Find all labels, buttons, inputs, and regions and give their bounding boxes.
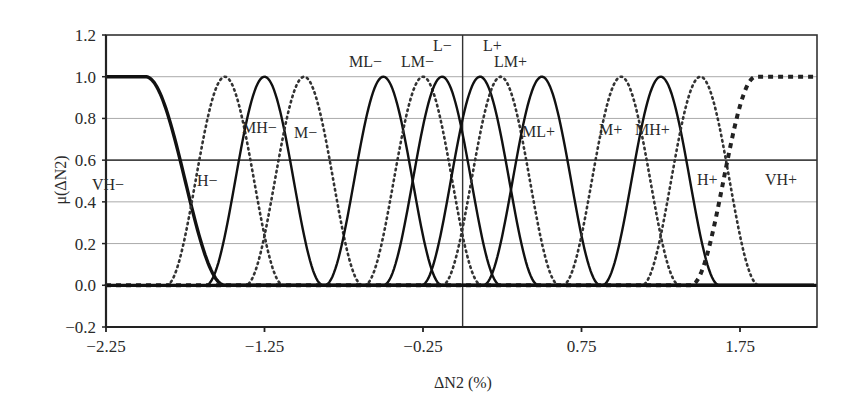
x-tick-label: −2.25: [86, 337, 125, 356]
curve-label: L−: [433, 37, 452, 54]
curve-label: LM−: [401, 53, 434, 70]
x-tick-label: 1.75: [725, 337, 755, 356]
y-axis-title: μ(ΔN2): [52, 155, 70, 204]
y-tick-label: 0.2: [75, 235, 96, 254]
x-tick-label: −0.25: [403, 337, 442, 356]
curve-label: ML−: [349, 53, 382, 70]
y-tick-label: 1.0: [75, 68, 96, 87]
x-axis-title: ΔN2 (%): [434, 374, 492, 392]
curve-label: VH−: [92, 176, 124, 193]
curve-label: L+: [483, 37, 502, 54]
y-tick-label: 0.0: [75, 276, 96, 295]
x-tick-label: −1.25: [245, 337, 284, 356]
y-tick-label: 1.2: [75, 26, 96, 45]
fuzzy-membership-chart: −0.20.00.20.40.60.81.01.2−2.25−1.25−0.25…: [0, 0, 852, 400]
curve-label: MH+: [635, 121, 670, 138]
y-tick-label: 0.4: [75, 193, 97, 212]
curve-label: M+: [599, 121, 622, 138]
curve-label: H−: [197, 172, 218, 189]
y-tick-label: −0.2: [65, 318, 96, 337]
x-tick-label: 0.75: [567, 337, 597, 356]
curve-label: MH−: [242, 119, 277, 136]
y-tick-label: 0.6: [75, 151, 96, 170]
curve-label: LM+: [494, 53, 527, 70]
y-tick-label: 0.8: [75, 109, 96, 128]
curve-label: ML+: [522, 123, 555, 140]
curve-label: H+: [697, 171, 718, 188]
curve-label: M−: [294, 124, 317, 141]
curve-label: VH+: [765, 171, 797, 188]
